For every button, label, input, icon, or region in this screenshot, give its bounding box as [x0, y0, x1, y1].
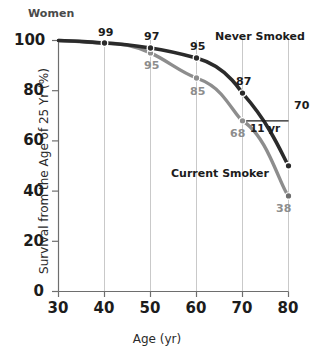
marker-current-smoker-70 — [239, 118, 245, 124]
x-tick-label-70: 70 — [225, 301, 259, 316]
annotation-11yr-label: 11 yr — [250, 123, 280, 134]
x-axis-title: Age (yr) — [0, 333, 314, 345]
value-label-current-smoker-70: 68 — [230, 128, 245, 139]
value-label-never-smoked-50: 97 — [144, 31, 159, 42]
y-axis-title: Survival from the Age of 25 Yr (%) — [38, 31, 50, 311]
marker-never-smoked-80 — [285, 163, 292, 170]
x-axis — [59, 292, 289, 298]
marker-never-smoked-50 — [147, 45, 154, 52]
x-tick-label-50: 50 — [133, 301, 167, 316]
value-label-current-smoker-60: 85 — [190, 86, 205, 97]
value-label-never-smoked-60: 95 — [190, 41, 205, 52]
series-label-never-smoked: Never Smoked — [215, 31, 305, 42]
marker-current-smoker-60 — [193, 75, 199, 81]
marker-never-smoked-60 — [193, 55, 200, 62]
value-label-never-smoked-70: 87 — [236, 76, 251, 87]
x-tick-label-80: 80 — [271, 301, 305, 316]
value-label-current-smoker-50: 95 — [144, 60, 159, 71]
marker-never-smoked-70 — [239, 90, 246, 97]
x-tick-label-60: 60 — [179, 301, 213, 316]
chart-figure: Women 100 80 60 40 20 0 30 40 50 60 70 8… — [0, 0, 314, 353]
value-label-current-smoker-80: 38 — [276, 203, 291, 214]
marker-current-smoker-80 — [285, 193, 291, 199]
marker-never-smoked-40 — [101, 40, 108, 47]
y-axis — [52, 40, 59, 292]
plot-area — [58, 40, 288, 291]
value-label-never-smoked-80: 70 — [294, 100, 309, 111]
x-tick-label-40: 40 — [87, 301, 121, 316]
series-label-current-smoker: Current Smoker — [171, 168, 269, 179]
value-label-never-smoked-40: 99 — [98, 27, 113, 38]
panel-title: Women — [28, 8, 75, 19]
